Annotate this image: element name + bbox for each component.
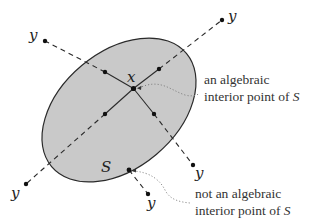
not-interior-caption-symbol: S xyxy=(284,203,291,218)
inner-dot xyxy=(103,70,107,74)
point-y xyxy=(220,18,224,22)
y-label-top-left: y xyxy=(28,26,38,44)
not-interior-caption-text: interior point of xyxy=(195,203,284,218)
point-y xyxy=(24,182,28,186)
boundary-point xyxy=(127,168,132,173)
point-x-label: x xyxy=(127,68,136,86)
interior-caption-line2: interior point of S xyxy=(204,89,300,104)
interior-caption-symbol: S xyxy=(293,89,300,104)
not-interior-caption-line2: interior point of S xyxy=(195,203,291,218)
set-s-label: S xyxy=(101,158,111,176)
y-label-bottom-right: y xyxy=(194,164,204,182)
interior-caption-line1: an algebraic xyxy=(204,72,270,87)
point-x xyxy=(131,86,136,91)
convex-set-diagram: x S y y y y y an algebraic interior poin… xyxy=(0,0,322,224)
y-label-bottom: y xyxy=(146,194,156,212)
inner-dot xyxy=(157,67,161,71)
y-label-top-right: y xyxy=(227,7,237,25)
point-y xyxy=(43,39,47,43)
y-label-bottom-left: y xyxy=(10,184,20,202)
inner-dot xyxy=(152,112,156,116)
inner-dot xyxy=(103,112,107,116)
not-interior-caption-line1: not an algebraic xyxy=(195,186,281,201)
interior-caption-text: interior point of xyxy=(204,89,293,104)
